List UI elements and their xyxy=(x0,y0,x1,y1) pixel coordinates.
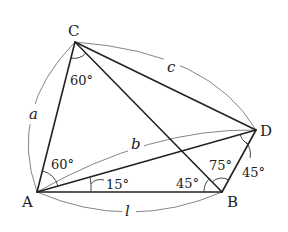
angle-label-C: 60° xyxy=(70,73,93,88)
angle-arc-C xyxy=(71,53,86,58)
vertex-label-A: A xyxy=(21,193,33,211)
angle-tick-A-15 xyxy=(91,180,104,185)
angle-label-B-75: 75° xyxy=(209,158,232,173)
vertex-label-C: C xyxy=(68,22,79,40)
edge-CB xyxy=(75,42,222,192)
vertex-label-B: B xyxy=(227,193,238,211)
angle-arc-B-45 xyxy=(204,179,209,192)
side-label-l: l xyxy=(125,202,130,220)
angle-label-A-60: 60° xyxy=(51,157,74,172)
angle-label-A-15: 15° xyxy=(106,177,129,192)
angle-label-D-45: 45° xyxy=(242,165,265,180)
side-label-b: b xyxy=(131,135,141,153)
angle-label-B-45: 45° xyxy=(176,176,199,191)
angle-arc-A-60 xyxy=(43,171,58,186)
edge-CD xyxy=(75,42,256,130)
angle-arc-B-75 xyxy=(212,178,229,182)
geometry-diagram: C A B D a c b l 60° 60° 15° 45° 75° 45° xyxy=(0,0,288,232)
angle-arc-A-15 xyxy=(90,177,91,192)
side-label-c: c xyxy=(167,58,176,76)
side-label-a: a xyxy=(29,105,38,123)
vertex-label-D: D xyxy=(260,122,272,140)
